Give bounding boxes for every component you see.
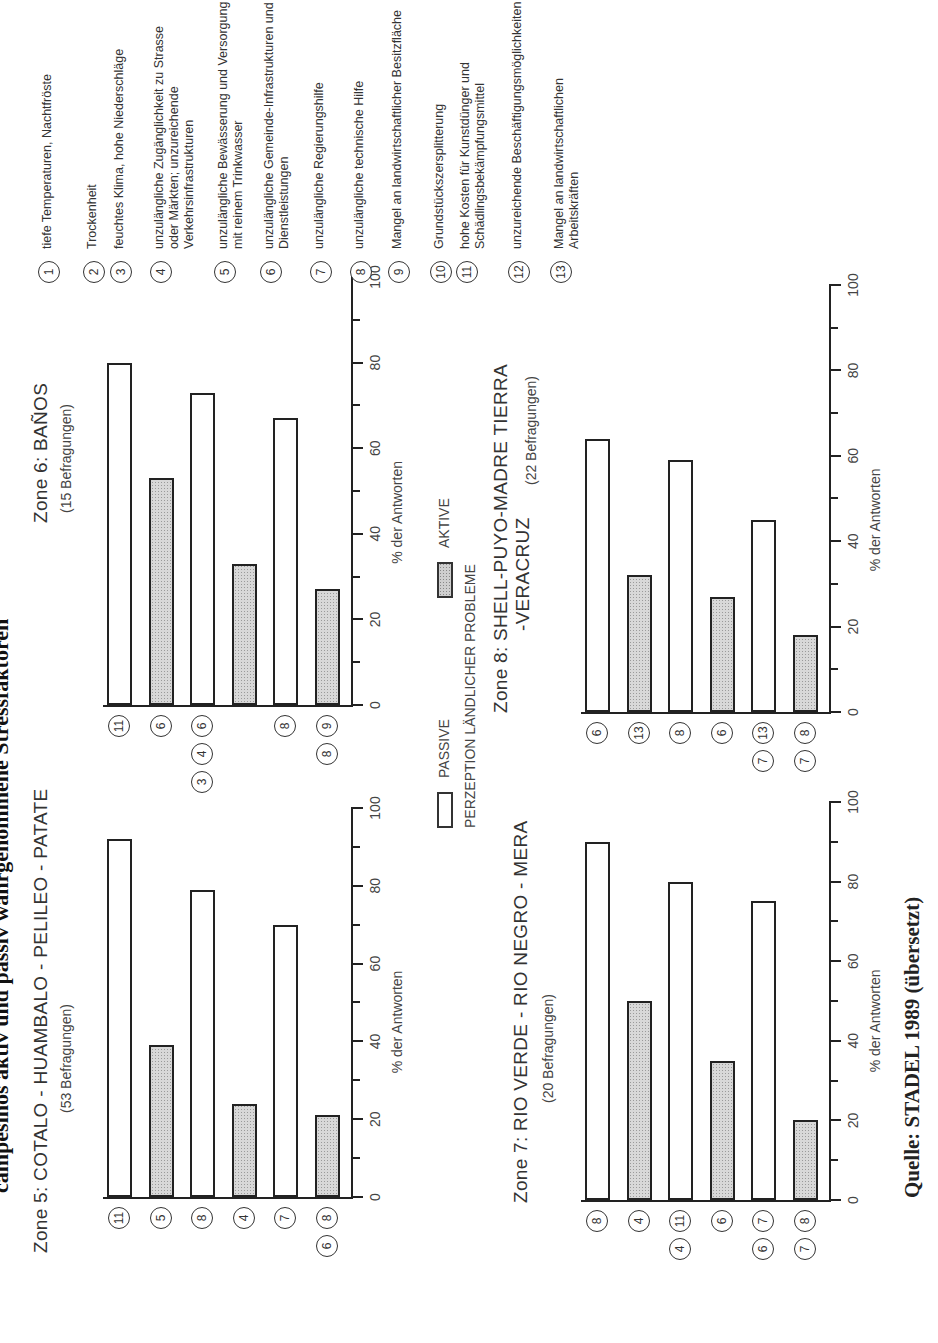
- key-item-3: 3feuchtes Klima, hohe Niederschläge: [112, 0, 132, 283]
- key-item-9: 9Mangel an landwirtschaftlicher Besitzfl…: [390, 0, 410, 283]
- axis-tick-label: 0: [845, 708, 861, 716]
- axis-tick: [829, 1199, 841, 1201]
- circled-number-12: 12: [508, 261, 530, 283]
- axis-tick: [351, 404, 360, 406]
- axis-tick-label: 40: [845, 533, 861, 549]
- axis-tick-label: 60: [845, 953, 861, 969]
- axis-tick-label: 0: [367, 1193, 383, 1201]
- circled-number-13: 13: [752, 722, 774, 744]
- key-item-12: 12unzureichende Beschäftigungsmöglichkei…: [510, 0, 530, 283]
- bar-category-labels: 6: [150, 715, 172, 737]
- key-item-text: Mangel an landwirtschaftlicher Besitzflä…: [390, 0, 405, 249]
- zone-subtitle: (22 Befragungen): [523, 376, 539, 485]
- key-item-10: 10Grundstückszersplitterung: [432, 0, 452, 283]
- circled-number-6: 6: [711, 1210, 733, 1232]
- axis-tick-label: 60: [367, 440, 383, 456]
- axis-tick: [829, 626, 841, 628]
- circled-number-4: 4: [191, 743, 213, 765]
- axis-tick: [351, 704, 363, 706]
- bar-category-labels: 98: [316, 715, 338, 765]
- axis-tick-label: 60: [367, 956, 383, 972]
- bar-category-labels: 11: [108, 715, 130, 737]
- circled-number-11: 11: [669, 1210, 691, 1232]
- bar-active: [710, 1061, 735, 1200]
- circled-number-7: 7: [752, 1210, 774, 1232]
- circled-number-8: 8: [794, 722, 816, 744]
- circled-number-8: 8: [586, 1210, 608, 1232]
- key-item-text: hohe Kosten für Kunstdünger und Schädlin…: [458, 0, 488, 249]
- axis-tick-label: 40: [845, 1033, 861, 1049]
- legend-passive-label: PASSIVE: [436, 719, 452, 778]
- bar-active: [793, 1120, 818, 1200]
- bar-passive: [668, 882, 693, 1200]
- circled-number-9: 9: [388, 261, 410, 283]
- circled-number-7: 7: [794, 1238, 816, 1260]
- axis-tick: [351, 319, 360, 321]
- circled-number-7: 7: [752, 750, 774, 772]
- axis-tick: [351, 576, 360, 578]
- bar-category-labels: 5: [150, 1207, 172, 1229]
- zone-title: Zone 6: BAÑOS: [30, 383, 52, 523]
- bar-category-labels: 7: [274, 1207, 296, 1229]
- circled-number-11: 11: [108, 1207, 130, 1229]
- axis-tick: [351, 533, 363, 535]
- key-item-text: Grundstückszersplitterung: [432, 0, 447, 249]
- circled-number-5: 5: [150, 1207, 172, 1229]
- bar-category-labels: 8: [586, 1210, 608, 1232]
- legend-active-label: AKTIVE: [436, 498, 452, 548]
- bar-category-labels: 6: [586, 722, 608, 744]
- bar-active: [793, 635, 818, 712]
- axis-tick: [351, 963, 363, 965]
- key-item-11: 11hohe Kosten für Kunstdünger und Schädl…: [458, 0, 488, 283]
- category-axis-line: [581, 712, 831, 714]
- bar-passive: [585, 439, 610, 712]
- category-axis-line: [103, 1197, 353, 1199]
- axis-tick: [829, 540, 841, 542]
- circled-number-11: 11: [108, 715, 130, 737]
- circled-number-3: 3: [110, 261, 132, 283]
- circled-number-11: 11: [456, 261, 478, 283]
- legend-caption: PERZEPTION LÄNDLICHER PROBLEME: [462, 564, 478, 828]
- value-axis-title: % der Antworten: [389, 971, 405, 1074]
- axis-tick: [829, 1119, 841, 1121]
- key-item-7: 7unzulängliche Regierungshilfe: [312, 0, 332, 283]
- axis-tick-label: 0: [845, 1196, 861, 1204]
- bar-category-labels: 114: [669, 1210, 691, 1260]
- legend-passive-swatch: [437, 792, 453, 828]
- axis-tick: [351, 1002, 360, 1004]
- axis-tick: [351, 807, 363, 809]
- bar-category-labels: 76: [752, 1210, 774, 1260]
- axis-tick: [351, 1118, 363, 1120]
- axis-tick: [351, 1157, 360, 1159]
- key-item-text: Trockenheit: [85, 0, 100, 249]
- axis-tick: [351, 885, 363, 887]
- axis-tick: [829, 920, 838, 922]
- circled-number-4: 4: [669, 1238, 691, 1260]
- axis-tick: [351, 661, 360, 663]
- axis-tick-label: 80: [367, 355, 383, 371]
- key-item-13: 13Mangel an landwirtschaftlichen Arbeits…: [552, 0, 582, 283]
- circled-number-8: 8: [274, 715, 296, 737]
- axis-tick: [829, 841, 838, 843]
- circled-number-8: 8: [669, 722, 691, 744]
- circled-number-6: 6: [316, 1235, 338, 1257]
- key-item-text: tiefe Temperaturen, Nachtfröste: [40, 0, 55, 249]
- bar-category-labels: 87: [794, 1210, 816, 1260]
- key-item-8: 8unzulängliche technische Hilfe: [352, 0, 372, 283]
- value-axis-title: % der Antworten: [867, 468, 883, 571]
- key-item-1: 1tiefe Temperaturen, Nachtfröste: [40, 0, 60, 283]
- bar-active: [710, 597, 735, 712]
- axis-tick-label: 40: [367, 526, 383, 542]
- axis-tick: [351, 1079, 360, 1081]
- zone-subtitle: (20 Befragungen): [540, 994, 556, 1103]
- circled-number-13: 13: [628, 722, 650, 744]
- key-item-text: feuchtes Klima, hohe Niederschläge: [112, 0, 127, 249]
- circled-number-6: 6: [191, 715, 213, 737]
- axis-tick: [351, 846, 360, 848]
- circled-number-8: 8: [316, 1207, 338, 1229]
- axis-tick-label: 20: [845, 619, 861, 635]
- circled-number-7: 7: [310, 261, 332, 283]
- key-item-text: unzulängliche Regierungshilfe: [312, 0, 327, 249]
- axis-tick: [351, 1196, 363, 1198]
- circled-number-9: 9: [316, 715, 338, 737]
